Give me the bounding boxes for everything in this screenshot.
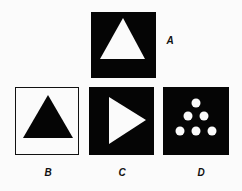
- label-a: A: [166, 36, 173, 46]
- right-triangle-white-icon: [89, 87, 154, 155]
- panel-a: [91, 12, 156, 78]
- upward-triangle-white-icon: [91, 12, 156, 78]
- dot-triangle-icon: [163, 87, 229, 155]
- label-d: D: [197, 168, 204, 178]
- label-b: B: [44, 168, 51, 178]
- panel-b: [15, 87, 79, 155]
- panel-d: [163, 87, 229, 155]
- upward-triangle-black-icon: [16, 88, 80, 156]
- label-c: C: [118, 168, 125, 178]
- panel-c: [89, 87, 154, 155]
